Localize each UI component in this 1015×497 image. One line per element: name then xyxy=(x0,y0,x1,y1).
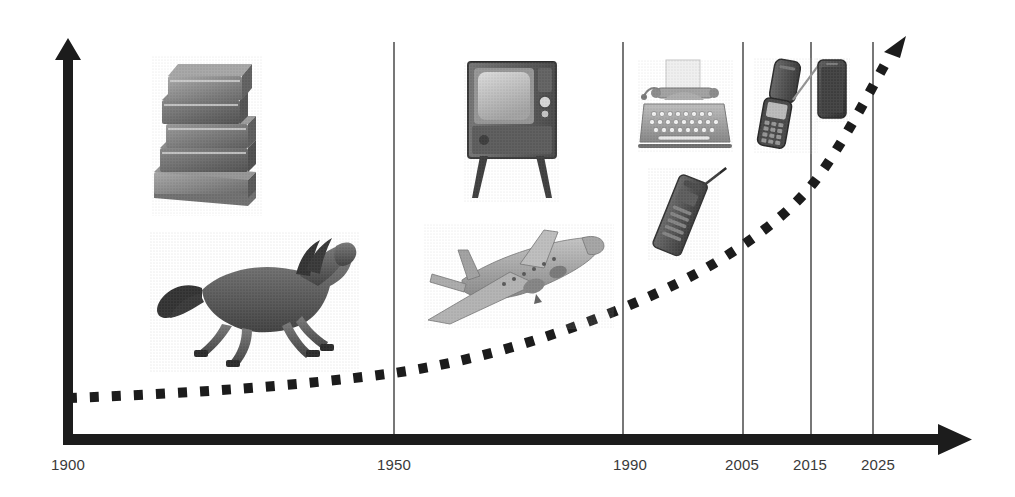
tick-label-2025: 2025 xyxy=(861,456,895,473)
tick-label-1950: 1950 xyxy=(377,456,411,473)
smartphone-image xyxy=(816,58,850,122)
propeller-airplane-image xyxy=(424,224,614,329)
tick-label-2005: 2005 xyxy=(725,456,759,473)
stack-of-books-image xyxy=(152,56,262,216)
trend-arrowhead-icon xyxy=(884,36,906,58)
vintage-television-image xyxy=(464,62,560,202)
tick-label-2015: 2015 xyxy=(793,456,827,473)
typewriter-image xyxy=(638,60,734,152)
timeline-infographic: 1900 1950 1990 2005 2015 2025 xyxy=(0,0,1015,497)
galloping-horse-image xyxy=(150,232,360,372)
flip-phone-image xyxy=(754,56,820,154)
tick-label-1990: 1990 xyxy=(613,456,647,473)
tick-label-1900: 1900 xyxy=(51,456,85,473)
chart-canvas xyxy=(0,0,1015,497)
vertical-axis xyxy=(55,38,81,443)
horizontal-axis xyxy=(63,424,972,455)
brick-mobile-phone-image xyxy=(648,153,726,261)
